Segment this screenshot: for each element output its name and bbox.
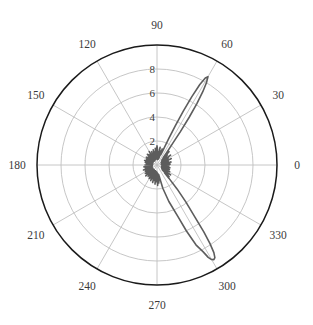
radial-tick-label-6: 6 <box>150 87 156 99</box>
angular-gridline-210 <box>53 165 157 225</box>
angular-tick-label-210: 210 <box>27 229 45 241</box>
angular-gridline-240 <box>97 165 157 269</box>
angular-tick-label-270: 270 <box>148 299 166 311</box>
angular-tick-label-90: 90 <box>151 19 163 31</box>
angular-tick-label-300: 300 <box>218 280 236 292</box>
angular-tick-label-60: 60 <box>221 38 233 50</box>
angular-tick-label-30: 30 <box>272 89 284 101</box>
angular-gridline-330 <box>157 165 261 225</box>
angular-tick-label-120: 120 <box>78 38 96 50</box>
data-series-layer <box>143 77 214 260</box>
grid-layer <box>37 45 277 285</box>
radial-tick-label-8: 8 <box>150 63 156 75</box>
polar-chart: 2468 0306090120150180210240270300330 <box>0 0 313 325</box>
radial-tick-label-2: 2 <box>150 135 156 147</box>
polar-plot-canvas: 2468 0306090120150180210240270300330 <box>0 0 313 325</box>
angular-tick-label-180: 180 <box>8 159 26 171</box>
angular-gridline-300 <box>157 165 217 269</box>
radial-tick-labels: 2468 <box>150 63 156 147</box>
data-series-0 <box>143 77 214 260</box>
angular-tick-label-150: 150 <box>27 89 45 101</box>
radial-tick-label-4: 4 <box>150 111 156 123</box>
angular-gridlines <box>37 45 277 285</box>
angular-gridline-120 <box>97 61 157 165</box>
angular-gridline-150 <box>53 105 157 165</box>
angular-tick-label-0: 0 <box>294 159 300 171</box>
angular-tick-label-240: 240 <box>78 280 96 292</box>
angular-tick-label-330: 330 <box>270 229 288 241</box>
angular-gridline-30 <box>157 105 261 165</box>
